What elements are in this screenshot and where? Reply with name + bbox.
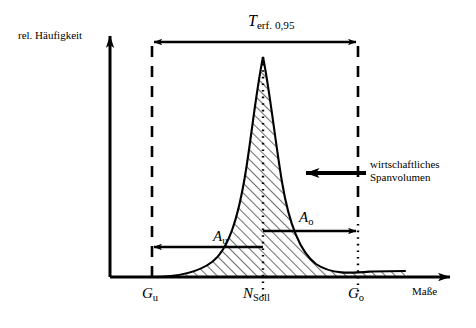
area-lower-label: Au <box>213 229 227 244</box>
tolerance-symbol: T <box>248 12 257 29</box>
tick-label-nominal-subscript: Soll <box>253 292 270 303</box>
tick-label-upper-limit: Go <box>348 286 364 301</box>
tick-label-nominal: NSoll <box>243 286 270 301</box>
area-upper-symbol: A <box>299 209 308 225</box>
area-lower-subscript: u <box>222 235 227 246</box>
tick-label-lower-limit: Gu <box>142 286 158 301</box>
tolerance-subscript: erf. 0,95 <box>257 19 295 31</box>
tick-label-nominal-symbol: N <box>243 285 253 301</box>
area-upper-subscript: o <box>308 216 313 227</box>
callout-label-line1: wirtschaftliches <box>370 158 440 171</box>
callout-label: wirtschaftliches Spanvolumen <box>370 158 440 184</box>
tick-label-lower-limit-subscript: u <box>153 292 158 303</box>
tick-label-upper-limit-subscript: o <box>359 292 364 303</box>
x-axis-label: Maße <box>412 286 437 297</box>
area-lower-symbol: A <box>213 228 222 244</box>
tick-label-lower-limit-symbol: G <box>142 285 153 301</box>
callout-label-line2: Spanvolumen <box>370 171 440 184</box>
y-axis-label: rel. Häufigkeit <box>18 30 82 41</box>
figure-root: rel. Häufigkeit Terf. 0,95 wirtschaftlic… <box>0 0 476 328</box>
tolerance-label: Terf. 0,95 <box>248 13 295 29</box>
tick-label-upper-limit-symbol: G <box>348 285 359 301</box>
area-upper-label: Ao <box>299 210 313 225</box>
